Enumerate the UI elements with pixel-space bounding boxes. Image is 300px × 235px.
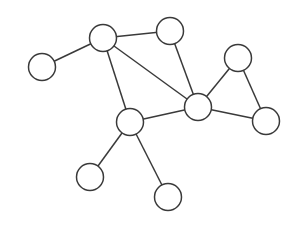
node-F [117,109,144,136]
node-H [155,184,182,211]
node-G [77,164,104,191]
edge-B-E [103,38,198,107]
node-D [225,45,252,72]
node-C [157,18,184,45]
node-E [185,94,212,121]
node-I [253,108,280,135]
node-A [29,54,56,81]
graph-nodes [29,18,280,211]
node-B [90,25,117,52]
network-graph [0,0,300,235]
